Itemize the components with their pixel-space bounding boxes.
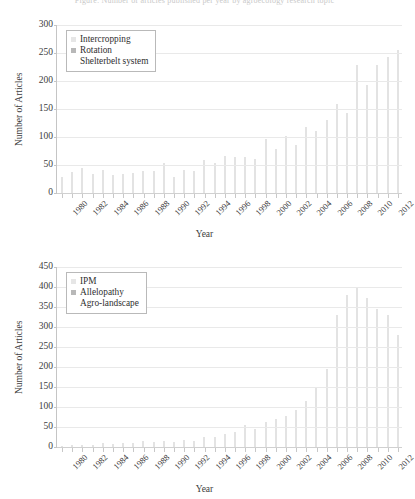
y-axis-tick-mark xyxy=(54,367,57,368)
bar xyxy=(193,171,195,193)
y-axis-tick-label: 0 xyxy=(48,442,53,452)
gridline xyxy=(57,367,402,368)
bar xyxy=(173,177,175,193)
y-axis-tick-label: 350 xyxy=(39,302,53,312)
legend-item[interactable]: Shelterbelt system xyxy=(71,56,148,67)
x-axis-tick-label: 1994 xyxy=(214,199,232,217)
gridline xyxy=(57,165,402,166)
y-axis-tick-label: 300 xyxy=(39,322,53,332)
bar xyxy=(254,429,256,447)
gridline xyxy=(57,347,402,348)
y-axis-title-bottom: Number of Articles xyxy=(14,320,24,393)
y-axis-tick-label: 250 xyxy=(39,342,53,352)
bar xyxy=(387,57,389,193)
legend-item-label: IPM xyxy=(80,277,97,286)
bar xyxy=(203,437,205,447)
y-axis-tick-label: 50 xyxy=(44,160,54,170)
x-axis-tick-label: 2010 xyxy=(376,453,394,471)
bar xyxy=(265,139,267,193)
x-axis-tick-label: 2012 xyxy=(397,453,415,471)
bar xyxy=(315,131,317,193)
bar xyxy=(234,157,236,193)
x-axis-tick-label: 2006 xyxy=(336,453,354,471)
x-axis-tick-label: 1988 xyxy=(153,453,171,471)
x-axis-title-top: Year xyxy=(0,229,409,239)
bar xyxy=(234,432,236,447)
y-axis-tick-label: 150 xyxy=(39,382,53,392)
x-axis-tick-label: 2004 xyxy=(315,199,333,217)
bar xyxy=(122,174,124,193)
bar xyxy=(366,298,368,447)
bar xyxy=(356,65,358,193)
bar xyxy=(346,113,348,193)
gridline xyxy=(57,387,402,388)
x-axis-tick-label: 1992 xyxy=(193,453,211,471)
x-axis-tick-label: 1996 xyxy=(234,453,252,471)
bar xyxy=(224,434,226,447)
legend-item[interactable]: Agro-landscape xyxy=(71,298,139,309)
y-axis-tick-mark xyxy=(54,165,57,166)
y-axis-tick-mark xyxy=(54,427,57,428)
x-axis-tick-label: 1990 xyxy=(173,199,191,217)
gridline xyxy=(57,267,402,268)
bar xyxy=(153,171,155,193)
y-axis-tick-label: 450 xyxy=(39,262,53,272)
gridline xyxy=(57,81,402,82)
x-axis-tick-label: 2006 xyxy=(336,199,354,217)
bar xyxy=(346,295,348,447)
x-axis-tick-label: 2008 xyxy=(356,199,374,217)
bar xyxy=(92,174,94,193)
bar xyxy=(163,163,165,193)
y-axis-tick-label: 100 xyxy=(39,402,53,412)
x-axis-tick-label: 1986 xyxy=(132,453,150,471)
y-axis-tick-mark xyxy=(54,53,57,54)
gridline xyxy=(57,407,402,408)
chart-bottom: Number of Articles 198019821984198619881… xyxy=(0,258,409,499)
legend-item[interactable]: IPM xyxy=(71,276,139,287)
legend-swatch-icon xyxy=(71,301,76,306)
x-axis-tick-label: 1996 xyxy=(234,199,252,217)
bar xyxy=(142,171,144,193)
bar xyxy=(112,175,114,193)
bar xyxy=(214,163,216,193)
y-axis-tick-mark xyxy=(54,407,57,408)
bar xyxy=(265,422,267,447)
y-axis-tick-label: 0 xyxy=(48,188,53,198)
bar xyxy=(295,410,297,447)
legend-top[interactable]: IntercroppingRotationShelterbelt system xyxy=(66,30,156,72)
bar xyxy=(275,419,277,447)
x-axis-tick-label: 2004 xyxy=(315,453,333,471)
legend-bottom[interactable]: IPMAllelopathyAgro-landscape xyxy=(66,272,147,314)
bar xyxy=(326,120,328,193)
y-axis-tick-mark xyxy=(54,25,57,26)
y-axis-tick-label: 400 xyxy=(39,282,53,292)
legend-item[interactable]: Rotation xyxy=(71,45,148,56)
legend-item[interactable]: Intercropping xyxy=(71,34,148,45)
x-axis-tick-label: 1998 xyxy=(254,199,272,217)
y-axis-tick-mark xyxy=(54,267,57,268)
bar xyxy=(102,170,104,193)
bar xyxy=(285,416,287,447)
gridline xyxy=(57,109,402,110)
x-axis-title-bottom: Year xyxy=(0,484,409,494)
x-axis-tick-label: 1984 xyxy=(112,453,130,471)
y-axis-tick-label: 100 xyxy=(39,132,53,142)
legend-item[interactable]: Allelopathy xyxy=(71,287,139,298)
y-axis-tick-mark xyxy=(54,447,57,448)
bar xyxy=(183,170,185,193)
gridline xyxy=(57,447,402,448)
x-axis-tick-label: 2000 xyxy=(275,199,293,217)
bar xyxy=(244,157,246,193)
x-axis-tick-label: 1980 xyxy=(71,199,89,217)
y-axis-tick-mark xyxy=(54,193,57,194)
x-axis-tick-label: 2012 xyxy=(397,199,415,217)
bar xyxy=(336,104,338,193)
x-axis-tick-label: 1992 xyxy=(193,199,211,217)
gridline xyxy=(57,25,402,26)
gridline xyxy=(57,327,402,328)
legend-item-label: Agro-landscape xyxy=(80,299,139,308)
bar xyxy=(224,156,226,193)
y-axis-tick-label: 300 xyxy=(39,20,53,30)
y-axis-tick-mark xyxy=(54,137,57,138)
